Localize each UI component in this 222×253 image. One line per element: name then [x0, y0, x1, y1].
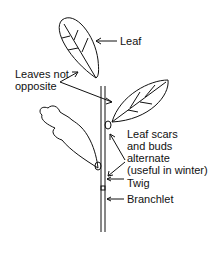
stem-icon [101, 86, 105, 232]
label-leaves-not-opposite-line2: opposite [15, 80, 57, 92]
leaf-arrangement-diagram: Leaf Leaves not opposite Leaf scars and … [0, 0, 222, 253]
label-twig: Twig [127, 177, 150, 189]
arrow-icon [107, 197, 124, 201]
arrow-icon [60, 82, 112, 104]
label-branchlet: Branchlet [127, 193, 173, 205]
arrow-icon [96, 38, 117, 44]
label-leaf: Leaf [120, 35, 141, 47]
arrow-icon [107, 177, 124, 181]
label-leaf-scars-line3: alternate [127, 152, 170, 164]
arrow-icon [110, 134, 125, 160]
arrow-icon [108, 162, 125, 176]
label-leaves-not-opposite-line1: Leaves not [15, 68, 69, 80]
bud-scale-scar-icon [101, 186, 105, 190]
label-leaf-scars-line2: and buds [127, 140, 172, 152]
label-leaf-scars-line1: Leaf scars [127, 128, 178, 140]
oak-leaf-icon [40, 106, 98, 168]
bud-icon [105, 121, 111, 129]
twig-illustration [0, 0, 222, 253]
label-leaf-scars-line4: (useful in winter) [127, 164, 208, 176]
